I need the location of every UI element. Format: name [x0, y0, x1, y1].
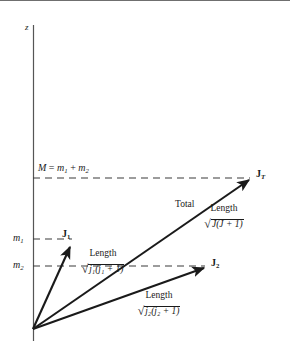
total-annotation: Total [175, 200, 194, 210]
radicand-J1: j₁(j₁ + 1) [88, 264, 124, 275]
tick-label-m2: m2 [13, 260, 24, 271]
radicand-J2: j₂(j₂ + 1) [144, 306, 180, 317]
radicand-JT: J(J + 1) [211, 219, 244, 230]
radical-sign-icon: √ [138, 305, 145, 318]
length-annotation-J1: Length √j₁(j₁ + 1) [73, 249, 133, 276]
tick-label-M: M = m1 + m2 [38, 163, 89, 174]
length-word-J1: Length [73, 249, 133, 259]
vector-label-J1: J1 [62, 229, 70, 240]
vector-label-JT: JT [256, 169, 265, 180]
radical-J1: √j₁(j₁ + 1) [73, 259, 133, 276]
z-axis-label: z [25, 23, 29, 32]
length-word-JT: Length [193, 204, 255, 214]
radical-sign-icon: √ [204, 218, 211, 231]
vector-label-J2: J2 [211, 258, 219, 269]
angular-momentum-diagram: z M = m1 + m2 m1 m2 J1 JT J2 Total Lengt… [0, 0, 290, 357]
length-annotation-JT: Length √J(J + 1) [193, 204, 255, 231]
radical-J2: √j₂(j₂ + 1) [128, 301, 190, 318]
radical-JT: √J(J + 1) [193, 214, 255, 231]
tick-label-m1: m1 [13, 233, 24, 244]
length-word-J2: Length [128, 291, 190, 301]
radical-sign-icon: √ [82, 263, 89, 276]
length-annotation-J2: Length √j₂(j₂ + 1) [128, 291, 190, 318]
